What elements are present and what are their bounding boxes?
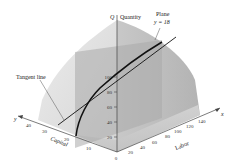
plane-leader — [155, 28, 160, 40]
x-axis-name: Labor — [174, 140, 190, 151]
production-surface-diagram: 20 40 60 80 100 20 40 60 80 100 120 140 … — [0, 0, 230, 168]
y-axis-arrow — [18, 115, 23, 119]
x-tick-120: 120 — [186, 124, 194, 129]
x-tick-40: 40 — [140, 145, 146, 150]
x-tick-20: 20 — [128, 150, 134, 155]
y-axis-letter: y — [13, 116, 17, 122]
q-tick-80: 80 — [107, 90, 113, 95]
origin-label: 0 — [115, 156, 118, 161]
x-tick-60: 60 — [152, 140, 158, 145]
q-axis-letter: Q — [110, 14, 115, 20]
y-tick-40: 40 — [26, 123, 32, 128]
x-tick-140: 140 — [198, 119, 206, 124]
x-axis-letter: x — [220, 111, 224, 117]
x-tick-80: 80 — [165, 134, 171, 139]
x-axis-arrow — [215, 108, 220, 112]
y-tick-30: 30 — [42, 129, 48, 134]
q-tick-20: 20 — [107, 135, 113, 140]
q-tick-40: 40 — [107, 120, 113, 125]
plane-label-line1: Plane — [156, 11, 170, 17]
y-tick-10: 10 — [86, 146, 92, 151]
x-tick-100: 100 — [174, 129, 182, 134]
q-tick-60: 60 — [107, 105, 113, 110]
plane-label-line2: y = 18 — [153, 19, 170, 25]
tangent-line-label: Tangent line — [16, 74, 46, 80]
q-axis-name: Quantity — [120, 14, 141, 20]
